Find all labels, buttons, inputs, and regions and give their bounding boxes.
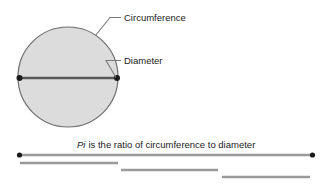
circumference-leader-line xyxy=(96,18,122,36)
diameter-label: Diameter xyxy=(124,55,163,66)
pi-caption-rest: is the ratio of circumference to diamete… xyxy=(88,139,255,150)
circumference-measure-left-dot xyxy=(17,152,22,157)
circumference-label: Circumference xyxy=(124,12,186,23)
pi-caption-italic-word: Pi xyxy=(77,139,86,150)
circumference-measure-right-dot xyxy=(310,152,315,157)
pi-caption: Piis the ratio of circumference to diame… xyxy=(77,139,255,150)
pi-diagram-svg: Circumference Diameter Piis the ratio of… xyxy=(0,0,331,186)
pi-diagram-canvas: Circumference Diameter Piis the ratio of… xyxy=(0,0,331,186)
diameter-endpoint-left-dot xyxy=(17,75,23,81)
